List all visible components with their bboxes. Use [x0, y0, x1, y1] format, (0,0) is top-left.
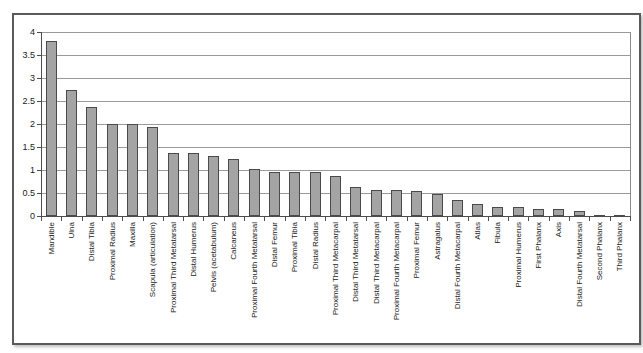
gridline [41, 32, 630, 33]
category-label: Proximal Radius [108, 222, 117, 280]
bar [269, 172, 280, 216]
category-label: Calcaneus [229, 222, 238, 260]
category-label: Proximal Fourth Metacarpal [392, 222, 401, 320]
bar [86, 107, 97, 216]
category-label: Distal Femur [270, 222, 279, 267]
bar [533, 209, 544, 216]
bar [513, 207, 524, 216]
category-label: First Phalanx [534, 222, 543, 269]
x-axis-tick [488, 217, 489, 221]
bar [208, 156, 219, 216]
category-label: Distal Tibia [87, 222, 96, 261]
x-axis-tick [468, 217, 469, 221]
bar [371, 190, 382, 216]
x-axis-tick [102, 217, 103, 221]
category-label: Distal Radius [311, 222, 320, 269]
x-axis-tick [143, 217, 144, 221]
y-tick-label: 3.5 [9, 51, 35, 60]
x-axis-tick [61, 217, 62, 221]
bar [310, 172, 321, 216]
category-label: Second Phalanx [595, 222, 604, 280]
x-axis-tick [589, 217, 590, 221]
x-axis-tick [508, 217, 509, 221]
x-axis-tick [386, 217, 387, 221]
bar [188, 153, 199, 216]
bar [350, 187, 361, 216]
x-axis-tick [447, 217, 448, 221]
x-axis-tick [244, 217, 245, 221]
gridline [41, 78, 630, 79]
y-tick-label: 3 [9, 74, 35, 83]
category-label: Third Phalanx [615, 222, 624, 271]
y-tick-label: 0 [9, 212, 35, 221]
y-tick-label: 4 [9, 28, 35, 37]
y-tick-label: 0.5 [9, 189, 35, 198]
category-label: Proximal Third Metatarsal [169, 222, 178, 313]
category-label: Maxilla [128, 222, 137, 247]
category-label: Proximal Third Metacarpal [331, 222, 340, 315]
bar [391, 190, 402, 216]
category-label: Scapula (articulation) [148, 222, 157, 297]
x-axis-tick [122, 217, 123, 221]
category-label: Proximal Humerus [514, 222, 523, 288]
x-axis-tick [183, 217, 184, 221]
bar [66, 90, 77, 216]
bar [411, 191, 422, 216]
x-axis-tick [630, 217, 631, 221]
x-axis-tick [366, 217, 367, 221]
bar [553, 209, 564, 216]
category-label: Fibula [493, 222, 502, 244]
category-label: Pelvis (acetabulum) [209, 222, 218, 292]
bar [127, 124, 138, 216]
x-axis-tick [163, 217, 164, 221]
x-axis-tick [264, 217, 265, 221]
bar [107, 124, 118, 216]
bar [249, 169, 260, 216]
category-label: Atlas [473, 222, 482, 240]
x-axis-line [41, 216, 631, 217]
x-axis-tick [407, 217, 408, 221]
x-axis-tick [346, 217, 347, 221]
category-label: Proximal Tibia [290, 222, 299, 272]
y-tick-label: 2 [9, 120, 35, 129]
bar [452, 200, 463, 216]
x-axis-tick [41, 217, 42, 221]
gridline [41, 101, 630, 102]
bar [147, 127, 158, 216]
category-label: Proximal Fourth Metatarsal [250, 222, 259, 318]
x-axis-tick [528, 217, 529, 221]
x-axis-tick [549, 217, 550, 221]
category-label: Axis [554, 222, 563, 237]
x-axis-tick [82, 217, 83, 221]
y-axis-line [41, 32, 42, 217]
category-label: Mandible [47, 222, 56, 254]
x-axis-tick [305, 217, 306, 221]
y-tick-label: 2.5 [9, 97, 35, 106]
bar [492, 207, 503, 216]
bar [330, 176, 341, 216]
category-label: Distal Third Metacarpal [372, 222, 381, 304]
x-axis-tick [427, 217, 428, 221]
x-axis-tick [569, 217, 570, 221]
x-axis-tick [203, 217, 204, 221]
plot-right-border [630, 32, 631, 217]
category-label: Distal Third Metatarsal [351, 222, 360, 302]
bar [289, 172, 300, 216]
bar [168, 153, 179, 216]
category-label: Distal Fourth Metatarsal [575, 222, 584, 307]
bar-chart-figure: 00.511.522.533.54MandibleUlnaDistal Tibi… [0, 0, 643, 353]
bar [228, 159, 239, 216]
category-label: Proximal Femur [412, 222, 421, 278]
y-tick-label: 1.5 [9, 143, 35, 152]
bar [432, 194, 443, 216]
x-axis-tick [285, 217, 286, 221]
category-label: Distal Humerus [189, 222, 198, 277]
category-label: Astragalus [433, 222, 442, 260]
bar [46, 41, 57, 216]
category-label: Ulna [67, 222, 76, 238]
y-tick-label: 1 [9, 166, 35, 175]
gridline [41, 55, 630, 56]
bar [472, 204, 483, 216]
category-label: Distal Fourth Metacarpal [453, 222, 462, 309]
x-axis-tick [610, 217, 611, 221]
